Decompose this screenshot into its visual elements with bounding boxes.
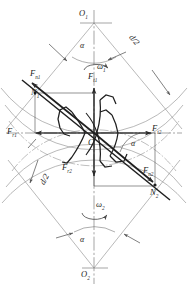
label-ft1: Ft1 <box>88 72 97 83</box>
label-alpha-right: α <box>131 140 135 148</box>
force-rectangle-upper <box>35 93 94 133</box>
label-ft2: Ft2 <box>152 124 161 135</box>
label-fn1: Fn1 <box>30 69 40 80</box>
diagram-canvas <box>0 0 188 291</box>
label-o2: O2 <box>81 270 90 281</box>
label-o1: O1 <box>79 9 88 20</box>
leader-arrow-d2-upper <box>152 70 170 95</box>
label-fr2: Fr2 <box>62 163 72 174</box>
label-fr1: Fr1 <box>7 127 17 138</box>
omega2-rotation-arrow <box>82 213 107 219</box>
label-pitch-point-c: C <box>88 138 94 147</box>
gear-force-diagram: O1 α d/2 ω1 Fn1 Ft1 N1 Fr1 Ft2 C α Fr2 F… <box>0 0 188 291</box>
angle-arc-at-pitch-point <box>120 133 140 152</box>
leader-arrow-alpha-top-left <box>49 44 67 61</box>
label-alpha-bottom: α <box>80 236 84 244</box>
label-omega2: ω2 <box>96 200 105 211</box>
tooth-profile-gear1 <box>58 95 116 167</box>
leader-arrow-fr1 <box>28 139 36 148</box>
angle-arc-bottom <box>74 227 115 232</box>
label-alpha-top: α <box>80 42 84 50</box>
leader-arrow-alpha-bottom-left <box>56 233 73 238</box>
leader-arrow-alpha-top-right <box>108 52 126 60</box>
label-n2: N2 <box>150 188 158 199</box>
label-fn2: Fn2 <box>143 166 153 177</box>
label-n1: N1 <box>31 88 39 99</box>
leader-arrow-alpha-bottom-right <box>124 234 140 243</box>
label-omega1: ω1 <box>97 62 106 73</box>
